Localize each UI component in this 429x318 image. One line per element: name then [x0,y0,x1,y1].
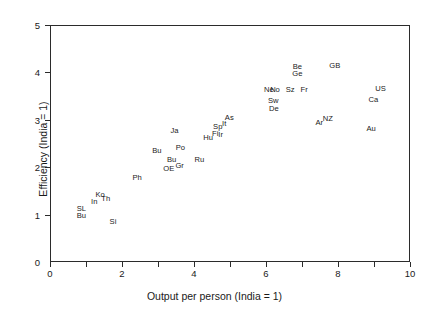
data-point-label: NZ [323,115,333,123]
data-point-label: US [375,86,386,94]
data-point-label: De [269,105,279,113]
data-point-label: Au [366,125,375,133]
data-point-label: Ja [171,127,179,135]
x-axis-tick [410,262,411,267]
data-point-label: Ge [292,70,302,78]
scatter-chart-figure: 0246810012345SLBuInKoThSiPhBuOEBuGrPoJaR… [0,0,429,318]
y-axis-label: Efficiency (India = 1) [37,49,49,249]
plot-area [50,25,410,262]
data-point-label: Bu [77,212,86,220]
x-axis-tick [194,262,195,267]
x-axis-tick-label: 8 [335,268,340,279]
x-axis-tick [230,262,231,267]
x-axis-label: Output per person (India = 1) [0,290,429,302]
data-point-label: Fr [301,86,308,94]
x-axis-tick [302,262,303,267]
x-axis-tick [50,262,51,267]
data-point-label: In [91,198,97,206]
x-axis-tick-label: 2 [119,268,124,279]
data-point-label: Th [101,195,110,203]
x-axis-tick [338,262,339,267]
data-point-label: Po [176,144,185,152]
data-point-label: As [225,114,234,122]
data-point-label: Ph [132,174,141,182]
x-axis-tick [86,262,87,267]
data-point-label: OE [163,165,174,173]
y-axis-tick-label: 5 [35,20,40,31]
plot-top-border [50,25,410,26]
plot-right-border [409,25,410,262]
data-point-label: Bu [152,147,161,155]
x-axis-tick [266,262,267,267]
x-axis-tick-label: 6 [263,268,268,279]
data-point-label: Gr [175,162,183,170]
x-axis-tick [122,262,123,267]
y-axis-tick [45,25,50,26]
data-point-label: No [270,87,280,95]
data-point-label: Si [110,218,117,226]
x-axis-tick-label: 0 [47,268,52,279]
x-axis-tick [374,262,375,267]
data-point-label: Sp [213,123,222,131]
data-point-label: Ca [368,97,378,105]
x-axis-tick-label: 4 [191,268,196,279]
data-point-label: Ir [218,131,223,139]
x-axis-tick [158,262,159,267]
data-point-label: Sz [286,86,295,94]
data-point-label: Ru [195,156,205,164]
y-axis-tick-label: 0 [35,257,40,268]
data-point-label: GB [329,62,340,70]
x-axis-tick-label: 10 [405,268,416,279]
